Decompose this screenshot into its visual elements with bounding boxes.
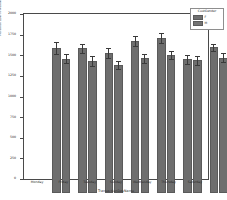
legend-title: CustGender	[193, 10, 221, 14]
error-bar-cap	[221, 53, 226, 54]
x-axis-title: TransactionDayName	[23, 189, 209, 193]
error-bar-cap	[90, 56, 95, 57]
bar	[183, 59, 192, 193]
legend-entries: FM	[193, 15, 221, 27]
error-bar-cap	[106, 58, 111, 59]
error-bar	[197, 56, 198, 65]
x-tick-label: Thursday	[155, 181, 181, 184]
legend-label: F	[205, 16, 207, 19]
error-bar-cap	[159, 33, 164, 34]
bar-group	[179, 28, 205, 193]
error-bar-cap	[142, 63, 147, 64]
bar	[78, 48, 87, 193]
legend-swatch	[193, 21, 203, 26]
bar	[105, 53, 114, 193]
legend: CustGender FM	[190, 8, 224, 30]
error-bar-cap	[116, 69, 121, 70]
error-bar-cap	[211, 51, 216, 52]
error-bar-cap	[54, 54, 59, 55]
error-bar	[66, 54, 67, 63]
y-tick-label: 0	[0, 177, 16, 180]
error-bar-cap	[133, 46, 138, 47]
error-bar-cap	[54, 42, 59, 43]
legend-entry: M	[193, 21, 221, 26]
legend-label: M	[205, 22, 208, 25]
error-bar	[223, 53, 224, 62]
error-bar	[161, 33, 162, 44]
error-bar	[82, 44, 83, 53]
error-bar-cap	[133, 36, 138, 37]
error-bar	[92, 56, 93, 65]
bar-series-container	[48, 28, 227, 193]
error-bar-cap	[195, 65, 200, 66]
plot-area	[23, 13, 209, 180]
error-bar-cap	[195, 56, 200, 57]
bar	[219, 58, 227, 193]
bar	[62, 59, 71, 193]
error-bar	[213, 44, 214, 51]
x-tick-label: Saturday	[182, 181, 208, 184]
bar	[210, 47, 219, 193]
y-axis-title: Personal Loan Investment in Dollars	[0, 0, 2, 52]
x-tick-label: Friday	[50, 181, 76, 184]
error-bar-cap	[106, 48, 111, 49]
error-bar-cap	[142, 54, 147, 55]
bar-group	[153, 28, 179, 193]
bar-group	[74, 28, 100, 193]
bar	[114, 65, 123, 193]
error-bar-cap	[80, 44, 85, 45]
bar	[193, 60, 202, 193]
bar-group	[48, 28, 74, 193]
legend-entry: F	[193, 15, 221, 20]
x-tick-label: Monday	[24, 181, 50, 184]
bar	[157, 38, 166, 193]
error-bar-cap	[64, 54, 69, 55]
error-bar	[135, 36, 136, 46]
error-bar-cap	[90, 66, 95, 67]
error-bar	[171, 51, 172, 59]
error-bar-cap	[64, 63, 69, 64]
x-tick-label: Sunday	[103, 181, 129, 184]
bar	[131, 41, 140, 193]
bar-group	[127, 28, 153, 193]
y-tick-label: 2000	[0, 12, 16, 15]
error-bar-cap	[80, 53, 85, 54]
error-bar-cap	[116, 61, 121, 62]
error-bar-cap	[169, 59, 174, 60]
bar-chart-figure: Personal Loan Investment in Dollars 0250…	[0, 0, 227, 200]
error-bar	[108, 48, 109, 58]
error-bar-cap	[185, 55, 190, 56]
y-tick-label: 1000	[0, 95, 16, 98]
error-bar	[144, 54, 145, 63]
x-tick-label: Wednesday	[129, 181, 155, 184]
error-bar-cap	[221, 62, 226, 63]
error-bar	[118, 61, 119, 69]
bar-group	[206, 28, 227, 193]
y-tick-label: 250	[0, 157, 16, 160]
bar	[88, 61, 97, 193]
y-tick-label: 750	[0, 116, 16, 119]
y-tick-label: 1750	[0, 33, 16, 36]
error-bar	[187, 55, 188, 64]
y-tick-label: 1500	[0, 54, 16, 57]
error-bar-cap	[211, 44, 216, 45]
bar	[167, 55, 176, 193]
bar	[141, 58, 150, 193]
x-tick-label: Tuesday	[77, 181, 103, 184]
y-tick-label: 500	[0, 136, 16, 139]
y-tick-label: 1250	[0, 74, 16, 77]
error-bar-cap	[159, 43, 164, 44]
error-bar-cap	[185, 64, 190, 65]
error-bar	[56, 42, 57, 54]
bar	[52, 48, 61, 193]
error-bar-cap	[169, 51, 174, 52]
legend-swatch	[193, 15, 203, 20]
bar-group	[101, 28, 127, 193]
